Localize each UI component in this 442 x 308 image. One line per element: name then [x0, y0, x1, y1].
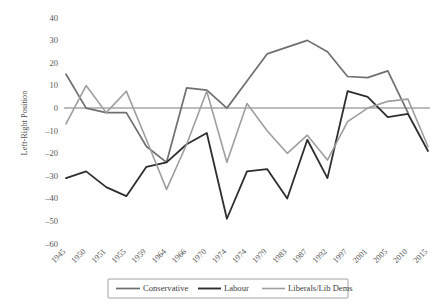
x-axis-tick-labels: 1945195019511955195919641966197019741974… [49, 247, 429, 265]
y-tick-label: –30 [44, 171, 58, 181]
y-tick-label: 30 [50, 35, 59, 45]
x-tick-label: 1983 [271, 247, 289, 265]
series-line-liberals [66, 86, 428, 190]
line-chart: 40 30 20 10 0 –10 –20 –30 –40 –50 –60 Le… [0, 0, 442, 308]
x-tick-label: 1970 [190, 247, 208, 265]
x-tick-label: 2001 [351, 247, 369, 265]
y-tick-label: –20 [44, 148, 58, 158]
y-tick-label: –50 [44, 216, 58, 226]
y-axis-tick-labels: 40 30 20 10 0 –10 –20 –30 –40 –50 –60 [44, 13, 58, 249]
x-tick-label: 1950 [70, 247, 88, 265]
legend-label-liberals: Liberals/Lib Dems [288, 283, 353, 293]
legend-label-conservative: Conservative [143, 283, 189, 293]
x-tick-label: 1987 [291, 247, 309, 265]
series-group [66, 40, 428, 218]
y-tick-label: –60 [44, 239, 58, 249]
legend-label-labour: Labour [224, 283, 249, 293]
y-tick-label: –10 [44, 126, 58, 136]
x-tick-label: 2010 [391, 247, 409, 265]
x-tick-label: 1955 [110, 247, 128, 265]
x-tick-label: 1974 [230, 247, 248, 265]
x-tick-label: 1945 [49, 247, 67, 265]
x-tick-label: 2015 [411, 247, 429, 265]
y-tick-label: 20 [50, 58, 59, 68]
y-tick-label: –40 [44, 193, 58, 203]
x-tick-label: 2005 [371, 247, 389, 265]
y-tick-label: 40 [50, 13, 59, 23]
x-tick-label: 1964 [150, 247, 168, 265]
chart-legend: Conservative Labour Liberals/Lib Dems [108, 279, 353, 298]
x-tick-label: 1951 [90, 247, 108, 265]
x-tick-label: 1974 [210, 247, 228, 265]
x-tick-label: 1959 [130, 247, 148, 265]
y-tick-label: 10 [50, 80, 59, 90]
x-tick-label: 1992 [311, 247, 329, 265]
x-tick-label: 1997 [331, 247, 349, 265]
chart-figure: 40 30 20 10 0 –10 –20 –30 –40 –50 –60 Le… [0, 0, 442, 308]
x-tick-label: 1966 [170, 247, 188, 265]
series-line-labour [66, 91, 428, 219]
x-tick-label: 1979 [251, 247, 269, 265]
y-axis-title: Left-Right Position [20, 90, 29, 156]
y-tick-label: 0 [54, 103, 58, 113]
